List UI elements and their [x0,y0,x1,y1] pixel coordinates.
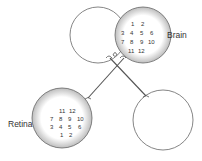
svg-text:11: 11 [59,108,66,114]
synapse-icon [113,53,117,57]
svg-text:12: 12 [138,48,145,54]
axon-retina-to-brain [88,58,124,98]
svg-text:11: 11 [128,48,135,54]
svg-text:12: 12 [69,108,76,114]
axon-right-to-left [110,58,146,96]
retina-label: Retina [8,119,33,129]
synapse-icon [85,98,91,100]
svg-text:10: 10 [77,116,84,122]
brain-label: Brain [167,30,187,40]
retina-brain-diagram: 1 2 3 4 5 6 7 8 9 10 11 12 Brain 11 12 7… [0,0,202,161]
retina-right-circle [133,90,193,150]
svg-text:10: 10 [148,39,155,45]
